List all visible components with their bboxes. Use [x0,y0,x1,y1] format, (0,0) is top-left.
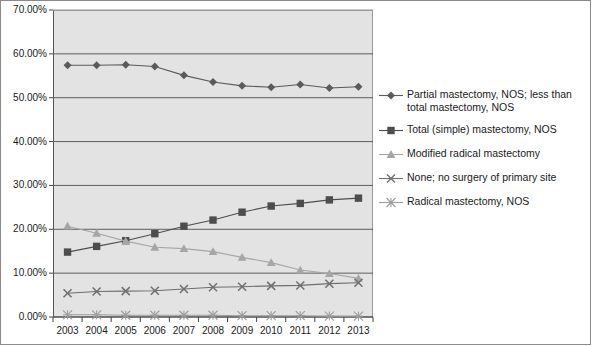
data-point-square [151,230,158,237]
y-axis-tick-label: 10.00% [13,268,47,278]
data-point-asterisk [238,311,247,320]
data-point-square [64,248,71,255]
legend-item[interactable]: Partial mastectomy, NOS; less than total… [378,88,590,113]
data-point-asterisk [209,311,218,320]
x-axis-tick-label: 2007 [173,325,195,336]
data-point-asterisk [63,310,72,319]
data-point-diamond [180,71,188,79]
y-axis-labels: 0.00%10.00%20.00%30.00%40.00%50.00%60.00… [0,0,50,327]
x-axis-tick-label: 2011 [290,325,312,336]
legend-label: Modified radical mastectomy [404,147,540,160]
x-axis-tick-label: 2013 [347,325,369,336]
data-point-diamond [354,83,362,91]
x-axis-tick-label: 2008 [202,325,224,336]
x-axis-tick-label: 2009 [231,325,253,336]
plot-series-canvas [53,10,373,317]
data-point-asterisk [354,312,363,321]
data-point-asterisk [179,311,188,320]
data-point-square [297,200,304,207]
y-axis-tick-label: 60.00% [13,49,47,59]
data-point-square [355,194,362,201]
data-point-square [387,127,394,134]
legend-item[interactable]: Radical mastectomy, NOS [378,195,590,209]
data-point-diamond [387,92,395,100]
x-axis-tick-label: 2003 [56,325,78,336]
x-axis-tick-label: 2010 [260,325,282,336]
legend-item[interactable]: None; no surgery of primary site [378,171,590,185]
data-point-diamond [151,63,159,71]
line-chart: 0.00%10.00%20.00%30.00%40.00%50.00%60.00… [0,0,592,346]
data-point-diamond [296,81,304,89]
legend-marker-square-icon [378,124,404,137]
x-axis-labels: 2003200420052006200720082009201020112012… [53,325,373,343]
data-point-asterisk [92,310,101,319]
data-point-square [326,196,333,203]
data-point-diamond [64,61,72,69]
x-axis-tick-label: 2004 [86,325,108,336]
y-axis-tick-label: 50.00% [13,93,47,103]
plot-area [53,10,373,317]
data-point-asterisk [296,311,305,320]
data-point-square [209,216,216,223]
y-axis-tick-label: 0.00% [19,312,47,322]
data-point-asterisk [150,311,159,320]
data-point-diamond [209,78,217,86]
data-point-diamond [238,82,246,90]
legend-marker-diamond-icon [378,89,404,102]
data-point-square [267,202,274,209]
x-axis-tick-label: 2006 [144,325,166,336]
y-axis-tick-label: 70.00% [13,5,47,15]
data-point-diamond [267,83,275,91]
legend-marker-asterisk-icon [378,196,404,209]
legend-label: Radical mastectomy, NOS [404,195,529,208]
x-axis-tick-label: 2012 [318,325,340,336]
legend-label: Total (simple) mastectomy, NOS [404,123,557,136]
series-0 [64,61,363,92]
y-axis-tick-label: 30.00% [13,180,47,190]
legend-label: Partial mastectomy, NOS; less than total… [404,88,590,113]
series-3 [64,279,363,298]
x-axis-tick-label: 2005 [115,325,137,336]
data-point-diamond [122,61,130,69]
data-point-asterisk [387,198,396,207]
series-1 [64,194,362,255]
data-point-triangle [63,222,72,230]
data-point-asterisk [267,311,276,320]
data-point-asterisk [325,312,334,321]
chart-legend: Partial mastectomy, NOS; less than total… [378,88,590,219]
data-point-diamond [93,61,101,69]
legend-item[interactable]: Modified radical mastectomy [378,147,590,161]
legend-label: None; no surgery of primary site [404,171,556,184]
legend-marker-x-icon [378,172,404,185]
y-axis-tick-label: 40.00% [13,137,47,147]
data-point-square [180,223,187,230]
series-line [68,198,359,252]
legend-item[interactable]: Total (simple) mastectomy, NOS [378,123,590,137]
y-axis-tick-label: 20.00% [13,224,47,234]
data-point-asterisk [121,311,130,320]
data-point-square [238,208,245,215]
legend-marker-triangle-icon [378,148,404,161]
data-point-square [93,243,100,250]
data-point-diamond [325,84,333,92]
